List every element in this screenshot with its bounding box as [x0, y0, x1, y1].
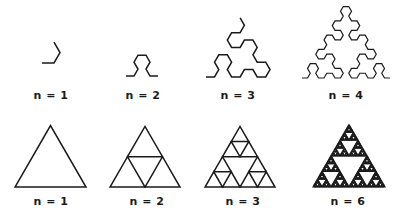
arrowhead-curve-n2 [126, 55, 158, 76]
sierpinski-triangle-n6 [313, 125, 385, 187]
arrowhead-curve-n4 [302, 7, 390, 78]
arrowhead-label-n4: n = 4 [329, 89, 364, 102]
arrowhead-curve-n1 [42, 42, 60, 63]
arrowhead-label-n2: n = 2 [126, 89, 161, 102]
sierpinski-label-n6: n = 6 [331, 195, 366, 208]
sierpinski-label-n2: n = 2 [130, 195, 165, 208]
arrowhead-label-n1: n = 1 [34, 89, 69, 102]
sierpinski-label-n1: n = 1 [34, 195, 69, 208]
sierpinski-label-n3: n = 3 [226, 195, 261, 208]
arrowhead-curve-n3 [206, 18, 270, 77]
arrowhead-row [42, 7, 390, 78]
sierpinski-row [15, 125, 385, 187]
fractal-figure [0, 0, 397, 223]
sierpinski-triangle-n1 [15, 126, 86, 187]
arrowhead-label-n3: n = 3 [221, 89, 256, 102]
sierpinski-triangle-n2 [110, 126, 180, 187]
sierpinski-triangle-n3 [205, 126, 275, 187]
